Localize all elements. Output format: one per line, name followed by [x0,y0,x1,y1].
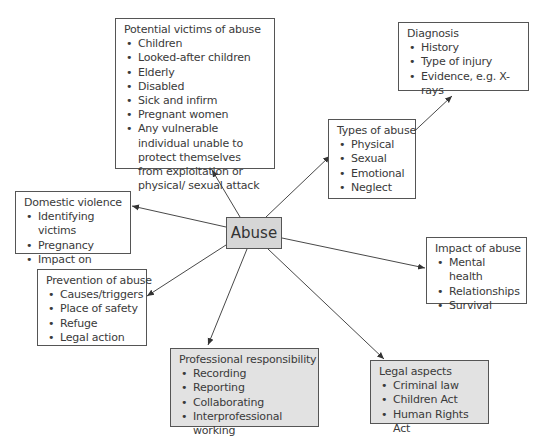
list-item: Recording [179,367,312,381]
node-title: Diagnosis [407,27,522,41]
list-item: Relationships [435,285,520,299]
node-prevention-of-abuse: Prevention of abuse Causes/triggers Plac… [37,269,147,346]
list-item: Survival [435,299,520,313]
list-item: Sick and infirm [124,94,268,108]
list-item: Looked-after children [124,51,268,65]
list-item: Children [124,37,268,51]
node-legal-aspects: Legal aspects Criminal law Children Act … [370,360,489,424]
node-types-of-abuse: Types of abuse Physical Sexual Emotional… [328,119,416,199]
list-item: Human Rights Act [379,408,482,436]
node-diagnosis: Diagnosis History Type of injury Evidenc… [398,22,529,91]
node-title: Professional responsibility [179,353,312,367]
list-item: Sexual [337,152,409,166]
node-title: Impact of abuse [435,242,520,256]
list-item: Legal action [46,331,140,345]
list-item: Place of safety [46,302,140,316]
list-item: Reporting [179,381,312,395]
list-item: Causes/triggers [46,288,140,302]
list-item: Children Act [379,393,482,407]
list-item: History [407,41,522,55]
list-item: Neglect [337,181,409,195]
central-topic-label: Abuse [231,224,277,242]
list-item: Physical [337,138,409,152]
node-domestic-violence: Domestic violence Identifying victims Pr… [15,191,131,254]
central-topic-abuse: Abuse [226,217,282,249]
node-title: Potential victims of abuse [124,23,268,37]
node-title: Legal aspects [379,365,482,379]
node-title: Types of abuse [337,124,409,138]
list-item: Evidence, e.g. X-rays [407,70,522,98]
list-item: Type of injury [407,55,522,69]
list-item: Mental health [435,256,520,284]
node-potential-victims: Potential victims of abuse Children Look… [115,18,275,169]
list-item: Pregnancy [24,239,124,253]
list-item: Elderly [124,66,268,80]
node-professional-responsibility: Professional responsibility Recording Re… [170,348,319,427]
list-item: Collaborating [179,396,312,410]
list-item: Interprofessional working [179,410,312,437]
node-impact-of-abuse: Impact of abuse Mental health Relationsh… [426,237,527,304]
node-title: Domestic violence [24,196,124,210]
list-item: Identifying victims [24,210,124,238]
list-item: Criminal law [379,379,482,393]
node-title: Prevention of abuse [46,274,140,288]
list-item: Any vulnerable individual unable to prot… [124,122,268,193]
list-item: Disabled [124,80,268,94]
list-item: Emotional [337,167,409,181]
list-item: Refuge [46,317,140,331]
list-item: Pregnant women [124,108,268,122]
